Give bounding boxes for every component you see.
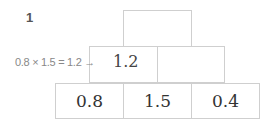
- hint-answer: 1.2: [113, 52, 138, 71]
- pyramid-middle-cell-2[interactable]: [157, 46, 225, 83]
- problem-number: 1: [26, 10, 33, 25]
- hint-expression: 0.8 × 1.5 = 1.2 →: [15, 56, 95, 68]
- pyramid-bottom-cell-1: 0.8: [55, 83, 124, 119]
- pyramid-bottom-cell-2: 1.5: [123, 83, 192, 119]
- pyramid-top-cell[interactable]: [123, 10, 192, 47]
- pyramid-bottom-cell-3: 0.4: [191, 83, 260, 119]
